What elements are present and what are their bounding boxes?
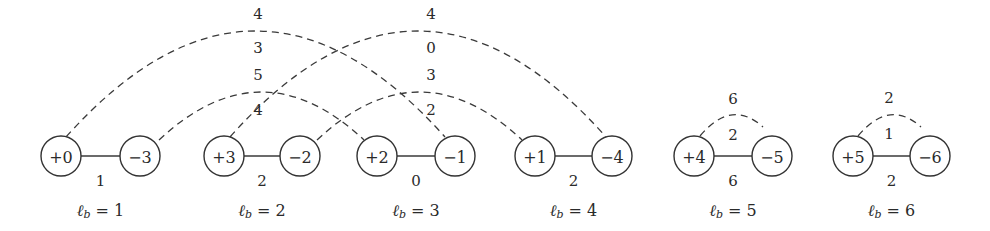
lb-equals: = — [563, 201, 587, 220]
edge-weight-label: 1 — [96, 172, 106, 190]
node-plus-label: +2 — [365, 148, 389, 167]
node-plus-label: +1 — [523, 148, 547, 167]
lb-equals: = — [723, 201, 747, 220]
lb-value: 3 — [430, 201, 440, 220]
block-1: +0−31ℓb = 1 — [41, 136, 160, 221]
arc-label-below: 4 — [253, 101, 263, 119]
node-minus-label: −2 — [288, 148, 312, 167]
lb-equals: = — [252, 201, 276, 220]
lb-subscript: b — [716, 208, 723, 221]
block-2: +3−22ℓb = 2 — [204, 136, 320, 221]
lb-subscript: b — [83, 208, 90, 221]
lb-value: 2 — [276, 201, 286, 220]
lb-caption: ℓb = 4 — [550, 201, 597, 221]
node-minus-label: −1 — [443, 148, 467, 167]
lb-equals: = — [881, 201, 905, 220]
edge-weight-label: 6 — [728, 172, 738, 190]
node-plus-label: +5 — [841, 148, 865, 167]
edge-weight-label: 2 — [887, 172, 897, 190]
lb-value: 6 — [905, 201, 915, 220]
lb-value: 1 — [114, 201, 124, 220]
node-plus-label: +4 — [682, 148, 706, 167]
node-minus-label: −3 — [128, 148, 152, 167]
blocks: +0−31ℓb = 1+3−22ℓb = 2+2−10ℓb = 3+1−42ℓb… — [41, 136, 950, 221]
arc-weight-labels: 434054326221 — [253, 5, 894, 144]
dashed-arc — [230, 31, 606, 137]
node-plus-label: +0 — [49, 148, 73, 167]
node-minus-label: −4 — [600, 148, 624, 167]
node-minus-label: −5 — [760, 148, 784, 167]
arc-label-above: 6 — [728, 90, 738, 108]
lb-caption: ℓb = 3 — [392, 201, 439, 221]
lb-value: 5 — [747, 201, 757, 220]
lb-caption: ℓb = 5 — [709, 201, 756, 221]
block-6: +5−62ℓb = 6 — [833, 136, 950, 221]
arc-label-above: 4 — [426, 5, 436, 23]
lb-caption: ℓb = 6 — [868, 201, 915, 221]
arc-label-below: 0 — [426, 39, 436, 57]
arc-label-above: 3 — [426, 66, 436, 84]
arc-label-below: 1 — [884, 125, 894, 143]
edge-weight-label: 0 — [411, 172, 421, 190]
block-5: +4−56ℓb = 5 — [674, 136, 792, 221]
lb-caption: ℓb = 2 — [238, 201, 285, 221]
edge-weight-label: 2 — [569, 172, 579, 190]
lb-subscript: b — [556, 208, 563, 221]
arc-label-below: 3 — [253, 39, 263, 57]
dashed-arcs — [66, 31, 921, 140]
node-plus-label: +3 — [212, 148, 236, 167]
lb-subscript: b — [399, 208, 406, 221]
arc-label-above: 2 — [884, 89, 894, 107]
arc-label-below: 2 — [426, 101, 436, 119]
lb-equals: = — [406, 201, 430, 220]
node-minus-label: −6 — [918, 148, 942, 167]
arc-label-above: 5 — [253, 66, 263, 84]
lb-equals: = — [90, 201, 114, 220]
dashed-arc — [317, 92, 522, 140]
arc-label-above: 4 — [253, 5, 263, 23]
block-3: +2−10ℓb = 3 — [357, 136, 475, 221]
lb-value: 4 — [587, 201, 597, 220]
lb-subscript: b — [874, 208, 881, 221]
lb-subscript: b — [245, 208, 252, 221]
block-4: +1−42ℓb = 4 — [515, 136, 632, 221]
edge-weight-label: 2 — [257, 172, 267, 190]
arc-label-below: 2 — [728, 126, 738, 144]
lb-caption: ℓb = 1 — [77, 201, 124, 221]
block-graph-diagram: +0−31ℓb = 1+3−22ℓb = 2+2−10ℓb = 3+1−42ℓb… — [0, 0, 990, 231]
